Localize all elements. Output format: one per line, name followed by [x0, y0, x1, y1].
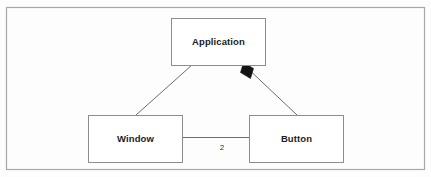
uml-class-diagram: Application Window Button 2 [0, 0, 431, 177]
node-application-label: Application [192, 36, 245, 47]
node-application[interactable]: Application [172, 19, 266, 66]
diagram-canvas: Application Window Button 2 [0, 0, 431, 177]
edge-application-window[interactable] [136, 65, 192, 115]
node-window[interactable]: Window [89, 116, 183, 163]
node-window-label: Window [117, 133, 154, 144]
node-button[interactable]: Button [250, 116, 344, 163]
node-button-label: Button [281, 133, 312, 144]
multiplicity-label-window-button: 2 [220, 143, 225, 152]
